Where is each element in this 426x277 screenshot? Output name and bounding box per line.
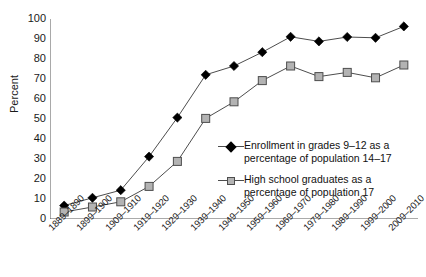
legend-item-graduates[interactable]: High school graduates as a percentage of…	[218, 173, 418, 198]
legend-item-enrollment[interactable]: Enrollment in grades 9–12 as a percentag…	[218, 139, 418, 164]
legend-label-enrollment: Enrollment in grades 9–12 as a percentag…	[244, 139, 392, 164]
legend-label-graduates-line2: percentage of population 17	[244, 186, 374, 199]
legend-label-enrollment-line1: Enrollment in grades 9–12 as a	[244, 139, 389, 151]
chart-legend: Enrollment in grades 9–12 as a percentag…	[218, 139, 418, 207]
legend-label-graduates-line1: High school graduates as a	[244, 173, 371, 185]
legend-label-enrollment-line2: percentage of population 14–17	[244, 152, 392, 165]
chart-container: Percent 1009080706050403020100 1889–1890…	[0, 0, 426, 277]
diamond-marker-icon	[218, 140, 244, 153]
square-marker-icon	[218, 174, 244, 187]
legend-label-graduates: High school graduates as a percentage of…	[244, 173, 374, 198]
